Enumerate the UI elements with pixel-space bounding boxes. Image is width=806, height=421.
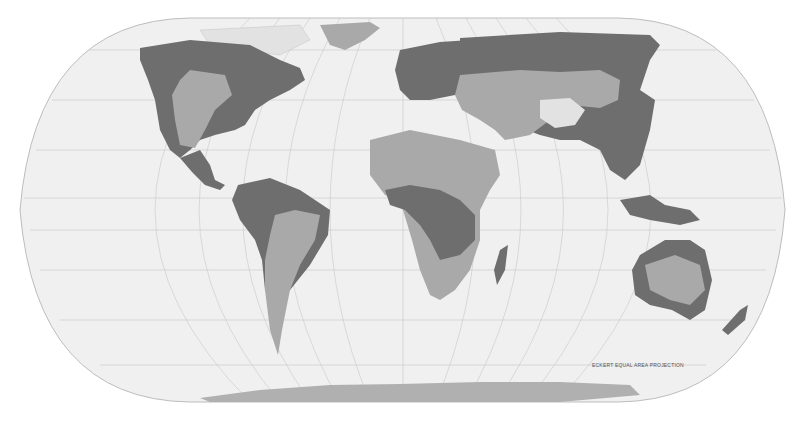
projection-label: ECKERT EQUAL AREA PROJECTION	[592, 362, 684, 368]
world-map	[0, 0, 806, 421]
